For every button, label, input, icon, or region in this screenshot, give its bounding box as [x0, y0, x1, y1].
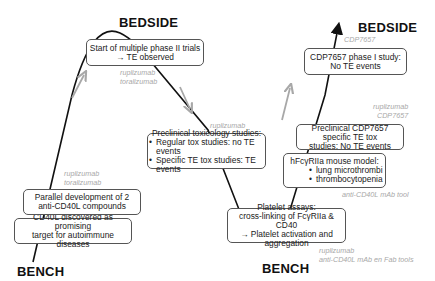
note-line: toralizumab: [120, 78, 157, 87]
preclinical-tox-box: Preclinical toxicology studies: Regular …: [147, 133, 266, 169]
box-line: CD40L discovered as promising: [15, 213, 131, 231]
bullet-item: thrombocytopenia: [308, 175, 385, 184]
bedside-label-left: BEDSIDE: [119, 15, 178, 30]
cd40l-discovered-box: CD40L discovered as promising target for…: [14, 218, 132, 244]
compound-note-mouse: anti-CD40L mAb tool: [342, 191, 409, 200]
phase2-trials-box: Start of multiple phase II trials → TE o…: [86, 39, 204, 66]
compound-note-left-lower: ruplizumab toralizumab: [64, 170, 101, 187]
note-line: toralizumab: [64, 179, 101, 188]
bullet-list: lung microthrombi thrombocytopenia: [308, 166, 385, 184]
cdp7657-tox-box: Preclinical CDP7657 specific TE tox stud…: [296, 124, 404, 150]
bullet-item: Specific TE tox studies: TE events: [148, 156, 265, 174]
note-line: anti-CD40L mAb en Fab tools: [319, 256, 414, 265]
bedside-label-right: BEDSIDE: [358, 20, 417, 35]
compound-note-platelet: ruplizumab anti-CD40L mAb en Fab tools: [319, 247, 414, 264]
platelet-assays-box: Platelet assays: cross-linking of FcγRII…: [227, 208, 346, 243]
compound-note-cdp-top: CDP7657: [344, 36, 375, 45]
mouse-model-box: hFcγRIIa mouse model: lung microthrombi …: [283, 153, 386, 188]
note-line: anti-CD40L mAb tool: [342, 191, 409, 200]
box-line: studies: No TE events: [297, 142, 403, 151]
note-line: ruplizumab: [210, 122, 245, 131]
bench-label-middle: BENCH: [262, 261, 309, 276]
bench-label-left: BENCH: [17, 264, 64, 279]
box-line: → TE observed: [87, 53, 203, 62]
box-line: Preclinical CDP7657 specific TE tox: [297, 124, 403, 142]
parallel-development-box: Parallel development of 2 anti-CD40L com…: [23, 189, 141, 215]
compound-note-cdp-tox: ruplizumab CDP7657: [373, 103, 408, 120]
bullet-list: Regular tox studies: no TE events Specif…: [148, 138, 265, 174]
cdp7657-phase1-box: CDP7657 phase I study: No TE events: [304, 48, 407, 75]
compound-note-preclinical: ruplizumab: [210, 122, 245, 131]
note-line: CDP7657: [344, 36, 375, 45]
compound-note-top: ruplizumab toralizumab: [120, 69, 157, 86]
box-line: cross-linking of FcγRIIa & CD40: [228, 212, 345, 230]
box-line: No TE events: [305, 62, 406, 71]
box-line: anti-CD40L compounds: [24, 202, 140, 211]
box-line: target for autoimmune diseases: [15, 231, 131, 249]
bullet-item: Regular tox studies: no TE events: [148, 138, 265, 156]
note-line: CDP7657: [373, 112, 408, 121]
